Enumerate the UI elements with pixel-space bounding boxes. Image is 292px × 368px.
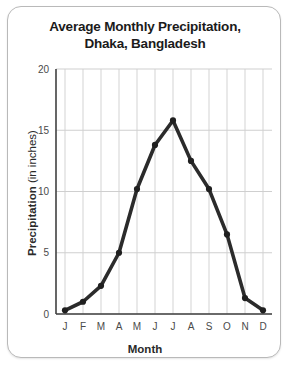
x-tick-label: J	[171, 321, 176, 332]
precipitation-data-points	[62, 117, 266, 313]
data-point	[170, 117, 176, 123]
data-point	[188, 158, 194, 164]
x-tick-label: N	[241, 321, 248, 332]
x-tick-label: J	[153, 321, 158, 332]
y-tick-label: 15	[38, 125, 50, 136]
x-tick-label: S	[206, 321, 213, 332]
x-tick-label: O	[223, 321, 231, 332]
y-tick-label: 20	[38, 64, 50, 75]
data-point	[206, 186, 212, 192]
data-point	[260, 307, 266, 313]
x-tick-label: M	[97, 321, 105, 332]
x-tick-label: D	[259, 321, 266, 332]
y-tick-label: 0	[43, 309, 49, 320]
precipitation-line-chart: 05101520 JFMAMJJASOND	[8, 7, 282, 359]
x-tick-label: A	[188, 321, 195, 332]
data-point	[242, 295, 248, 301]
x-tick-label: A	[116, 321, 123, 332]
data-point	[134, 186, 140, 192]
precipitation-series-line	[65, 120, 263, 310]
y-tick-label: 5	[43, 247, 49, 258]
plot-area: 05101520 JFMAMJJASOND	[8, 7, 282, 359]
y-tick-label: 10	[38, 186, 50, 197]
x-tick-label: M	[133, 321, 141, 332]
y-axis-tick-labels: 05101520	[38, 64, 50, 320]
chart-card: Average Monthly Precipitation, Dhaka, Ba…	[7, 6, 281, 358]
x-tick-label: J	[63, 321, 68, 332]
x-axis-tick-labels: JFMAMJJASOND	[63, 321, 267, 332]
data-point	[152, 142, 158, 148]
x-tick-label: F	[80, 321, 86, 332]
data-point	[62, 307, 68, 313]
data-point	[98, 283, 104, 289]
data-point	[116, 250, 122, 256]
data-point	[224, 231, 230, 237]
data-point	[80, 299, 86, 305]
